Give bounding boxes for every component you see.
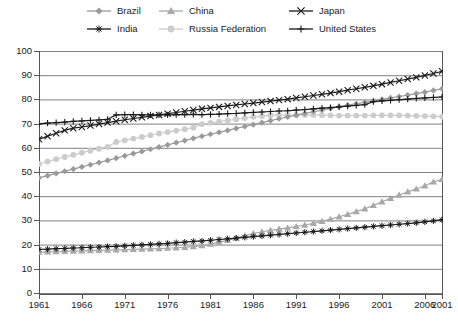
- legend-item-india[interactable]: India: [86, 20, 158, 38]
- x-axis-tick-label: 1991: [276, 300, 316, 310]
- plus-marker-icon: [288, 22, 314, 36]
- y-axis-tick-label: 40: [2, 191, 32, 201]
- legend-item-russia-federation[interactable]: Russia Federation: [158, 20, 288, 38]
- y-axis-tick-label: 0: [2, 288, 32, 298]
- x-axis-line: [39, 294, 443, 295]
- x-axis-tick-label: 1966: [62, 300, 102, 310]
- legend-row: BrazilChinaJapan: [86, 2, 426, 20]
- x-axis-tick-label: 1961: [19, 300, 59, 310]
- x-axis-tick-mark: [425, 294, 426, 299]
- y-axis-tick-mark: [34, 196, 39, 197]
- legend-item-label: Russia Federation: [189, 24, 266, 34]
- y-axis-tick-mark: [34, 148, 39, 149]
- legend-item-japan[interactable]: Japan: [288, 2, 418, 20]
- y-axis-tick-label: 70: [2, 119, 32, 129]
- triangle-marker-icon: [158, 4, 184, 18]
- y-axis-tick-mark: [34, 75, 39, 76]
- x-axis-tick-label: 1981: [190, 300, 230, 310]
- legend-item-brazil[interactable]: Brazil: [86, 2, 158, 20]
- x-axis-tick-mark: [253, 294, 254, 299]
- x-axis-tick-label: 1986: [233, 300, 273, 310]
- y-axis-tick-mark: [34, 172, 39, 173]
- star-marker-icon: [86, 22, 112, 36]
- x-axis-tick-mark: [168, 294, 169, 299]
- y-axis-tick-mark: [34, 245, 39, 246]
- y-axis-tick-label: 10: [2, 264, 32, 274]
- y-axis-tick-mark: [34, 220, 39, 221]
- x-axis-tick-mark: [125, 294, 126, 299]
- y-axis-tick-label: 100: [2, 46, 32, 56]
- y-axis-tick-mark: [34, 99, 39, 100]
- y-axis-tick-label: 50: [2, 167, 32, 177]
- x-axis-tick-label: 1996: [319, 300, 359, 310]
- x-axis-tick-label: 1976: [148, 300, 188, 310]
- y-axis-tick-label: 80: [2, 94, 32, 104]
- chart-page: BrazilChinaJapanIndiaRussia FederationUn…: [0, 0, 458, 321]
- y-axis-tick-mark: [34, 124, 39, 125]
- legend-row: IndiaRussia FederationUnited States: [86, 20, 426, 38]
- legend-item-china[interactable]: China: [158, 2, 288, 20]
- x-axis-tick-mark: [442, 294, 443, 299]
- chart-legend: BrazilChinaJapanIndiaRussia FederationUn…: [86, 2, 426, 38]
- y-axis-tick-label: 20: [2, 240, 32, 250]
- legend-item-united-states[interactable]: United States: [288, 20, 418, 38]
- legend-item-label: China: [189, 6, 214, 16]
- diamond-marker-icon: [86, 4, 112, 18]
- x-axis-tick-label: 1971: [105, 300, 145, 310]
- circle-marker-icon: [158, 22, 184, 36]
- y-axis-tick-mark: [34, 269, 39, 270]
- x-marker-icon: [288, 4, 314, 18]
- y-axis-tick-label: 90: [2, 70, 32, 80]
- x-axis-tick-mark: [210, 294, 211, 299]
- y-axis-tick-mark: [34, 51, 39, 52]
- legend-item-label: United States: [319, 24, 376, 34]
- legend-item-label: India: [117, 24, 138, 34]
- x-axis-tick-mark: [382, 294, 383, 299]
- x-axis-tick-mark: [82, 294, 83, 299]
- x-axis-tick-label: 2001: [422, 300, 458, 310]
- x-axis-tick-mark: [296, 294, 297, 299]
- x-axis-tick-label: 2001: [362, 300, 402, 310]
- legend-item-label: Japan: [319, 6, 345, 16]
- y-axis-tick-label: 60: [2, 143, 32, 153]
- chart-plot-area: [39, 51, 443, 294]
- y-axis-tick-label: 30: [2, 215, 32, 225]
- x-axis-tick-mark: [339, 294, 340, 299]
- legend-item-label: Brazil: [117, 6, 141, 16]
- x-axis-tick-mark: [39, 294, 40, 299]
